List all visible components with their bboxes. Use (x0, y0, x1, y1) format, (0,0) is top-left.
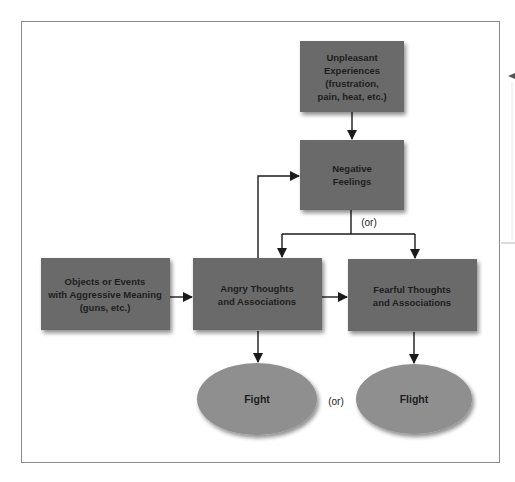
node-fearful-thoughts: Fearful Thoughts and Associations (348, 259, 477, 331)
unpleasant-line-1: Unpleasant (326, 52, 378, 63)
angry-line-1: Angry Thoughts (220, 283, 293, 294)
fearful-line-2: and Associations (373, 297, 451, 308)
node-objects-events: Objects or Events with Aggressive Meanin… (41, 258, 170, 330)
node-flight: Flight (356, 364, 472, 434)
node-negative-feelings: Negative Feelings (300, 140, 404, 210)
outside-artifacts (501, 73, 515, 243)
objects-line-1: Objects or Events (65, 276, 146, 287)
flight-label: Flight (400, 393, 429, 405)
box-negative (300, 140, 404, 210)
objects-line-2: with Aggressive Meaning (47, 289, 162, 300)
diagram-canvas: Unpleasant Experiences (frustration, pai… (0, 0, 515, 482)
unpleasant-line-2: Experiences (324, 65, 380, 76)
angry-line-2: and Associations (218, 296, 296, 307)
or-label-fight-flight: (or) (328, 396, 344, 407)
negative-line-1: Negative (332, 163, 372, 174)
fight-label: Fight (244, 393, 270, 405)
node-unpleasant-experiences: Unpleasant Experiences (frustration, pai… (300, 41, 404, 112)
fearful-line-1: Fearful Thoughts (373, 284, 451, 295)
box-angry (193, 258, 322, 330)
objects-line-3: (guns, etc.) (80, 302, 131, 313)
stray-arrowhead-icon (508, 73, 515, 79)
or-label-split: (or) (361, 217, 377, 228)
arrow-angry-to-negative (258, 176, 299, 258)
box-fearful (348, 259, 477, 331)
node-angry-thoughts: Angry Thoughts and Associations (193, 258, 322, 330)
unpleasant-line-3: (frustration, (325, 78, 378, 89)
unpleasant-line-4: pain, heat, etc.) (317, 91, 386, 102)
negative-line-2: Feelings (333, 176, 372, 187)
node-fight: Fight (197, 363, 317, 435)
